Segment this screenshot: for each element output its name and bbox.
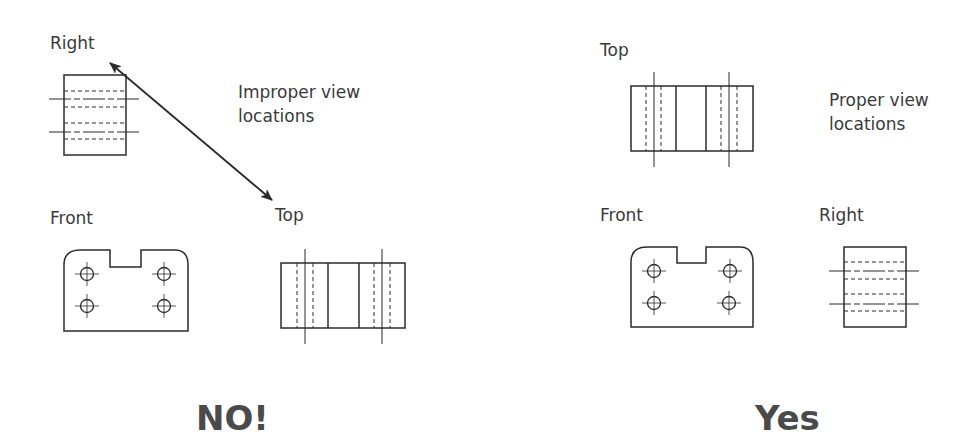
verdict-yes: Yes: [755, 398, 820, 434]
proper-note: Proper view locations: [829, 88, 929, 136]
left-front-label: Front: [50, 208, 93, 228]
verdict-no: NO!: [196, 398, 269, 434]
improper-note-line2: locations: [238, 104, 360, 128]
right-front-label: Front: [600, 205, 643, 225]
left-front-view: [64, 250, 188, 331]
improper-note-line1: Improper view: [238, 80, 360, 104]
right-top-label: Top: [600, 40, 629, 60]
left-top-label: Top: [275, 205, 304, 225]
left-right-label: Right: [50, 33, 95, 53]
left-top-view: [281, 249, 405, 344]
proper-note-line1: Proper view: [829, 88, 929, 112]
right-right-view: [829, 247, 921, 327]
right-top-view: [631, 72, 753, 167]
improper-note: Improper view locations: [238, 80, 360, 128]
proper-note-line2: locations: [829, 112, 929, 136]
left-right-view: [49, 75, 142, 155]
right-right-label: Right: [819, 205, 864, 225]
right-front-view: [631, 247, 753, 327]
